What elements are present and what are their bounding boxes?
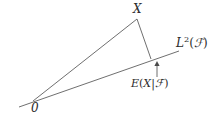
label-conditional-expectation: E(X|ℱ) [131, 78, 168, 89]
ce-sigma-field: ℱ [155, 77, 164, 90]
subspace-base: L [176, 36, 184, 50]
subspace-close-paren: ) [203, 36, 208, 50]
label-subspace-l2f: L2(ℱ) [176, 35, 208, 49]
up-arrow-icon [154, 61, 159, 77]
label-origin: 0 [31, 102, 39, 114]
projection-residual-line [137, 19, 151, 59]
subspace-sigma-field: ℱ [194, 36, 203, 50]
label-vector-x: X [133, 3, 142, 15]
ce-e: E [131, 77, 139, 90]
math-diagram: X L2(ℱ) E(X|ℱ) 0 [0, 0, 220, 119]
vector-x-line [33, 19, 137, 101]
ce-close-paren: ) [164, 77, 168, 90]
ce-x: X [143, 77, 151, 90]
